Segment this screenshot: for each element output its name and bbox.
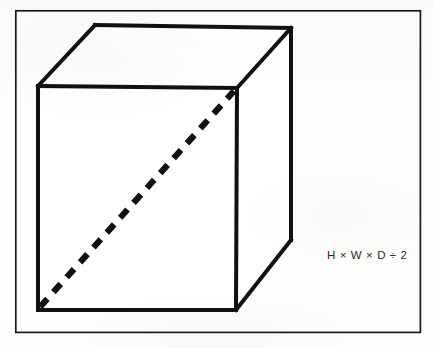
- box-diagram-svg: [0, 0, 433, 348]
- edge-front-top: [38, 86, 237, 88]
- volume-formula: H × W × D ÷ 2: [327, 249, 408, 261]
- edge-front-right: [236, 88, 237, 310]
- figure-page: H × W × D ÷ 2: [0, 0, 433, 348]
